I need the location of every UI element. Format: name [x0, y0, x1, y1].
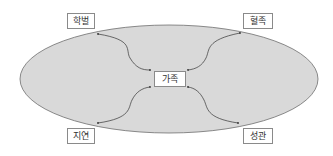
node-label: 성관 [250, 131, 266, 141]
node-top-right: 혈족 [243, 13, 273, 29]
node-top-left: 학벌 [67, 13, 95, 29]
node-label: 가족 [162, 74, 178, 84]
node-label: 지연 [73, 131, 89, 141]
node-label: 혈족 [250, 16, 266, 26]
node-label: 학벌 [73, 16, 89, 26]
diagram-canvas: 학벌 혈족 가족 지연 성관 [0, 0, 333, 156]
node-bottom-left: 지연 [67, 128, 95, 144]
node-bottom-right: 성관 [243, 128, 273, 144]
node-center: 가족 [154, 71, 186, 87]
